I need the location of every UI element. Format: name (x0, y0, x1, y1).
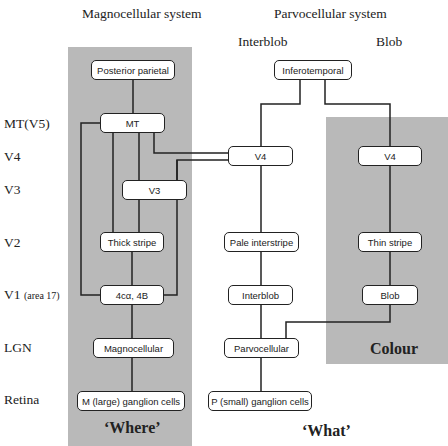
row-label-v1-main: V1 (4, 287, 21, 302)
visual-pathways-diagram: Magnocellular system Parvocellular syste… (0, 0, 448, 446)
node-m-ganglion-cells: M (large) ganglion cells (77, 391, 185, 411)
node-blob: Blob (362, 285, 418, 305)
node-thin-stripe: Thin stripe (358, 232, 422, 252)
row-label-v2: V2 (4, 235, 21, 251)
node-pale-interstripe: Pale interstripe (224, 232, 299, 252)
row-label-retina: Retina (4, 392, 39, 408)
magnocellular-system-header: Magnocellular system (82, 6, 202, 22)
node-parvocellular: Parvocellular (224, 338, 299, 358)
node-magnocellular: Magnocellular (93, 338, 174, 358)
node-v4-blob: V4 (358, 146, 422, 166)
row-label-v1: V1 (area 17) (4, 287, 60, 303)
caption-what: ‘What’ (302, 422, 351, 440)
connection-lines (0, 0, 448, 446)
row-label-mt: MT(V5) (4, 116, 50, 132)
node-4ca-4b: 4cα, 4B (100, 285, 164, 305)
parvocellular-system-header: Parvocellular system (274, 6, 387, 22)
node-inferotemporal: Inferotemporal (274, 60, 352, 80)
node-p-ganglion-cells: P (small) ganglion cells (208, 391, 312, 411)
caption-where: ‘Where’ (104, 419, 161, 437)
blob-header: Blob (376, 34, 402, 50)
row-label-v4: V4 (4, 149, 21, 165)
node-v4-interblob: V4 (228, 146, 293, 166)
caption-colour: Colour (370, 340, 418, 358)
row-label-v3: V3 (4, 182, 21, 198)
interblob-header: Interblob (238, 34, 288, 50)
row-label-lgn: LGN (4, 340, 32, 356)
node-mt: MT (100, 113, 165, 133)
node-v3: V3 (122, 180, 187, 200)
row-label-v1-sub: (area 17) (24, 290, 60, 301)
node-interblob: Interblob (228, 285, 293, 305)
node-thick-stripe: Thick stripe (100, 232, 164, 252)
node-posterior-parietal: Posterior parietal (91, 60, 175, 80)
